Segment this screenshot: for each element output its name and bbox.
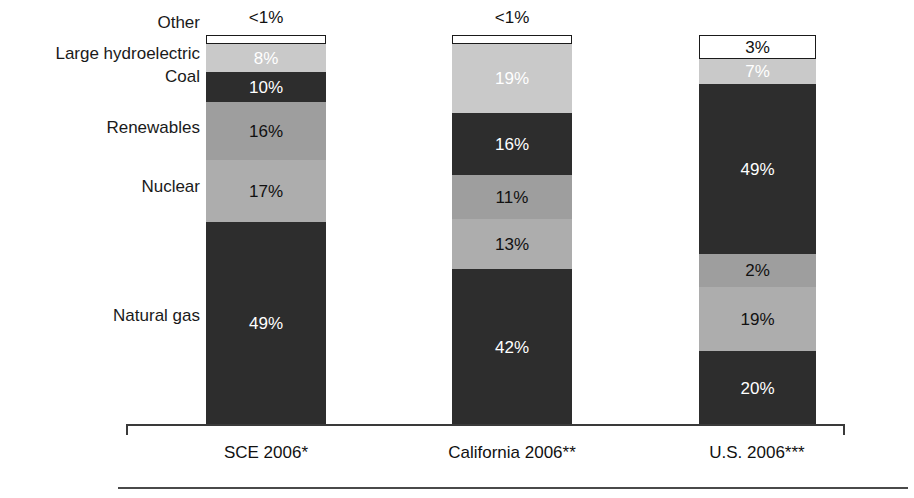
segment-us-renewables[interactable]: 2% [699,254,816,287]
segment-sce-other[interactable] [206,35,326,44]
segment-california-natural-gas[interactable]: 42% [452,269,572,425]
x-axis-label-sce-2006: SCE 2006* [186,443,346,463]
segment-us-natural-gas[interactable]: 20% [699,351,816,425]
segment-value: 49% [740,161,774,178]
segment-value: 19% [740,311,774,328]
bar-sce-2006-top-value: <1% [206,9,326,26]
category-label-other: Other [157,14,200,32]
segment-value: 42% [495,339,529,356]
segment-value: 3% [745,39,770,56]
category-label-coal: Coal [165,68,200,86]
x-axis-bracket [126,424,845,435]
category-label-renewables: Renewables [106,119,200,137]
segment-sce-nuclear[interactable]: 17% [206,160,326,222]
x-axis-label-california-2006: California 2006** [422,443,602,463]
segment-value: 11% [496,189,529,206]
segment-value: 10% [249,79,283,96]
segment-value: 2% [745,262,770,279]
segment-value: 49% [249,315,283,332]
category-label-large-hydroelectric: Large hydroelectric [55,45,200,63]
segment-california-other[interactable] [452,35,572,44]
stacked-bar-chart: Other Large hydroelectric Coal Renewable… [0,0,914,498]
segment-california-coal[interactable]: 16% [452,113,572,175]
segment-us-coal[interactable]: 49% [699,84,816,254]
segment-california-nuclear[interactable]: 13% [452,219,572,269]
segment-us-large-hydroelectric[interactable]: 7% [699,59,816,84]
segment-value: 17% [249,183,283,200]
segment-value: 20% [740,380,774,397]
segment-value: 16% [249,123,283,140]
footer-divider [118,487,908,489]
segment-value: 8% [254,50,279,67]
segment-value: 19% [495,70,529,87]
x-axis-label-us-2006: U.S. 2006*** [677,443,837,463]
bar-us-2006-stack: 3% 7% 49% 2% 19% 20% [699,35,816,425]
category-label-natural-gas: Natural gas [113,307,200,325]
segment-value: 13% [495,236,529,253]
segment-california-renewables[interactable]: 11% [452,175,572,219]
segment-sce-coal[interactable]: 10% [206,72,326,102]
segment-us-other[interactable]: 3% [699,35,816,59]
bar-california-2006-stack: 19% 16% 11% 13% 42% [452,35,572,425]
segment-value: 16% [495,136,529,153]
bar-us-2006[interactable]: 3% 7% 49% 2% 19% 20% [699,35,816,425]
segment-sce-renewables[interactable]: 16% [206,102,326,160]
bar-california-2006[interactable]: <1% 19% 16% 11% 13% 42% [452,35,572,425]
bar-sce-2006[interactable]: <1% 8% 10% 16% 17% 49% [206,35,326,425]
bar-california-2006-top-value: <1% [452,9,572,26]
bar-sce-2006-stack: 8% 10% 16% 17% 49% [206,35,326,425]
category-label-column: Other Large hydroelectric Coal Renewable… [0,0,200,420]
segment-value: 7% [745,63,770,80]
category-label-nuclear: Nuclear [141,178,200,196]
segment-california-large-hydroelectric[interactable]: 19% [452,44,572,113]
segment-sce-large-hydroelectric[interactable]: 8% [206,44,326,72]
segment-sce-natural-gas[interactable]: 49% [206,222,326,425]
segment-us-nuclear[interactable]: 19% [699,287,816,351]
